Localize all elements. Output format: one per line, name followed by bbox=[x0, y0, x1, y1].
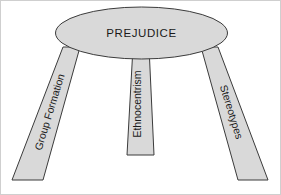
seat-prejudice: PREJUDICE bbox=[56, 7, 228, 59]
leg-group-formation: Group Formation bbox=[12, 47, 80, 180]
prejudice-stool-diagram: Group Formation Ethnocentrism Stereotype… bbox=[0, 0, 281, 195]
diagram-canvas: Group Formation Ethnocentrism Stereotype… bbox=[0, 0, 281, 195]
leg-stereotypes: Stereotypes bbox=[201, 47, 268, 180]
seat-prejudice-label: PREJUDICE bbox=[106, 27, 177, 39]
leg-ethnocentrism: Ethnocentrism bbox=[127, 47, 154, 155]
leg-ethnocentrism-label: Ethnocentrism bbox=[131, 70, 143, 137]
